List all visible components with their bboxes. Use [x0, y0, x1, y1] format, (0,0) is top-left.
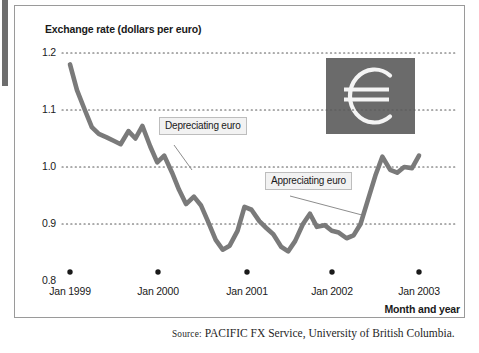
source-note: Source: PACIFIC FX Service, University o… — [172, 327, 455, 339]
source-text: PACIFIC FX Service, University of Britis… — [202, 327, 455, 339]
annotation-appreciating-euro: Appreciating euro — [265, 172, 352, 190]
x-tick-dot-jan-2000 — [155, 269, 160, 274]
figure-container: Exchange rate (dollars per euro) 1.2 1.1… — [0, 0, 479, 353]
annotation-depreciating-euro: Depreciating euro — [159, 117, 247, 135]
leader-line-appreciating — [290, 196, 362, 215]
x-tick-dot-jan-2003 — [416, 269, 421, 274]
x-tick-dot-jan-1999 — [67, 269, 72, 274]
x-tick-dot-jan-2002 — [329, 269, 334, 274]
x-tick-dot-jan-2001 — [244, 269, 249, 274]
chart-plot — [0, 0, 479, 353]
x-tick-dots — [67, 269, 421, 274]
gridlines — [62, 53, 455, 224]
annotation-appreciating-label: Appreciating euro — [271, 175, 346, 186]
annotation-depreciating-label: Depreciating euro — [165, 120, 241, 131]
leader-line-depreciating — [174, 145, 192, 170]
source-prefix: Source: — [172, 329, 202, 339]
exchange-rate-line — [70, 64, 419, 251]
